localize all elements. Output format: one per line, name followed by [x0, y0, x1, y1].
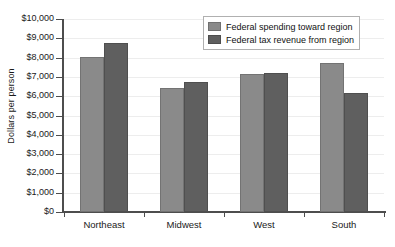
legend-item: Federal spending toward region	[208, 20, 354, 33]
y-axis-tick-label: $6,000	[2, 90, 54, 100]
y-axis-tick-label: $7,000	[2, 71, 54, 81]
bar	[344, 93, 368, 212]
bar-group	[80, 19, 128, 212]
y-axis-tick-label: $8,000	[2, 52, 54, 62]
bar	[320, 63, 344, 212]
y-axis-tick-label: $1,000	[2, 187, 54, 197]
y-axis-tick-label-wrap: $6,000	[0, 90, 54, 101]
x-axis-tick	[384, 211, 385, 217]
y-axis-tick-label: $10,000	[2, 13, 54, 23]
legend-label: Federal tax revenue from region	[226, 35, 354, 45]
x-axis-tick	[64, 211, 65, 217]
bar	[104, 43, 128, 212]
bar-group	[160, 19, 208, 212]
bar	[80, 57, 104, 212]
x-axis-tick	[304, 211, 305, 217]
y-axis-tick-label-wrap: $1,000	[0, 187, 54, 198]
y-axis-tick-label: $3,000	[2, 148, 54, 158]
y-axis-tick-label-wrap: $2,000	[0, 167, 54, 178]
x-axis-category-label: Midwest	[144, 219, 224, 230]
legend-item: Federal tax revenue from region	[208, 33, 354, 46]
y-axis-tick-label-wrap: $10,000	[0, 13, 54, 24]
legend: Federal spending toward regionFederal ta…	[203, 16, 360, 50]
legend-swatch	[208, 22, 221, 31]
y-axis-tick-label-wrap: $4,000	[0, 129, 54, 140]
x-axis-category-label: South	[304, 219, 384, 230]
legend-swatch	[208, 35, 221, 44]
y-axis-tick-label: $5,000	[2, 110, 54, 120]
x-axis-category-label: Northeast	[64, 219, 144, 230]
bar-chart: Dollars per person $0$1,000$2,000$3,000$…	[0, 0, 395, 247]
y-axis-tick-label: $4,000	[2, 129, 54, 139]
y-axis-tick-label-wrap: $7,000	[0, 71, 54, 82]
y-axis-tick-label-wrap: $8,000	[0, 52, 54, 63]
bar	[264, 73, 288, 212]
x-axis-tick	[224, 211, 225, 217]
legend-label: Federal spending toward region	[226, 22, 353, 32]
y-axis-tick-label: $9,000	[2, 32, 54, 42]
x-axis-category-label: West	[224, 219, 304, 230]
y-axis-tick-label-wrap: $5,000	[0, 110, 54, 121]
y-axis-tick-label-wrap: $3,000	[0, 148, 54, 159]
y-axis-tick-label-wrap: $9,000	[0, 32, 54, 43]
bar	[240, 74, 264, 212]
y-axis-tick-label: $2,000	[2, 167, 54, 177]
bar	[160, 88, 184, 212]
bar	[184, 82, 208, 212]
y-axis-tick-label: $0	[2, 206, 54, 216]
y-axis-tick-label-wrap: $0	[0, 206, 54, 217]
x-axis-tick	[144, 211, 145, 217]
